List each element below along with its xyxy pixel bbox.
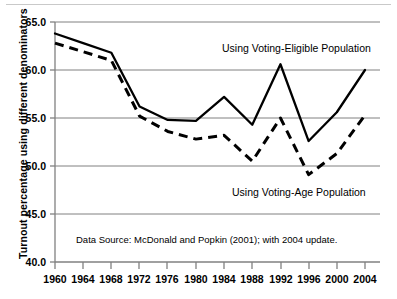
x-tick-label: 1992 xyxy=(269,273,293,285)
x-tick-label: 1976 xyxy=(155,273,179,285)
annotation-voting-eligible: Using Voting-Eligible Population xyxy=(222,42,371,54)
data-source-note: Data Source: McDonald and Popkin (2001);… xyxy=(76,234,337,245)
x-tick-label: 1968 xyxy=(99,273,123,285)
y-axis-ticks xyxy=(50,22,55,262)
annotation-voting-age: Using Voting-Age Population xyxy=(232,186,366,198)
y-tick-label: 55.0 xyxy=(26,112,47,124)
x-tick-label: 1996 xyxy=(297,273,321,285)
y-tick-label: 50.0 xyxy=(26,160,47,172)
x-tick-label: 1980 xyxy=(184,273,208,285)
x-axis-tick-labels: 1960 1964 1968 1972 1976 1980 1984 1988 … xyxy=(43,273,377,285)
y-tick-label: 60.0 xyxy=(26,64,47,76)
line-chart-plot: 65.0 60.0 55.0 50.0 45.0 40.0 1960 1964 … xyxy=(0,0,397,299)
x-tick-label: 1972 xyxy=(127,273,151,285)
x-tick-label: 1960 xyxy=(43,273,67,285)
x-tick-label: 2000 xyxy=(325,273,349,285)
y-axis-tick-labels: 65.0 60.0 55.0 50.0 45.0 40.0 xyxy=(26,16,47,268)
x-axis-ticks xyxy=(55,262,365,269)
x-tick-label: 1984 xyxy=(212,273,236,285)
y-tick-label: 65.0 xyxy=(26,16,47,28)
x-tick-label: 1988 xyxy=(240,273,264,285)
y-tick-label: 45.0 xyxy=(26,208,47,220)
chart-figure: Turnout percentage using different denom… xyxy=(0,0,397,299)
x-tick-label: 2004 xyxy=(353,273,377,285)
y-tick-label: 40.0 xyxy=(26,256,47,268)
x-tick-label: 1964 xyxy=(71,273,95,285)
